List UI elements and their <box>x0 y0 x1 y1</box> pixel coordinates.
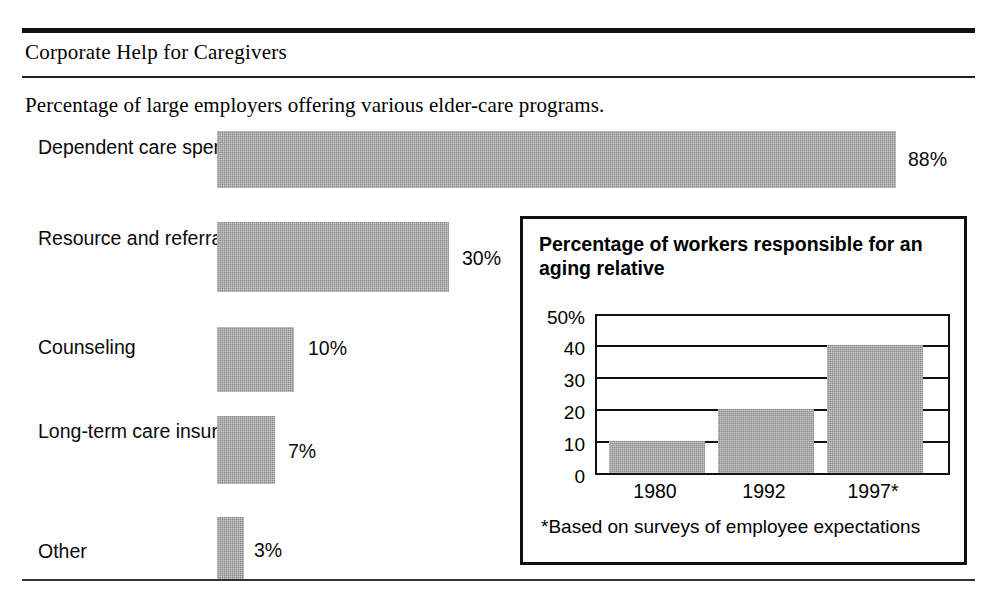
bar-value-label: 3% <box>254 539 282 562</box>
bar-value-label: 88% <box>908 148 947 171</box>
inset-footnote: *Based on surveys of employee expectatio… <box>541 516 920 538</box>
inset-chart-panel: Percentage of workers responsible for an… <box>520 216 967 565</box>
bar-value-label: 30% <box>462 247 501 270</box>
y-axis-tick-label: 0 <box>523 467 585 486</box>
bar-shape <box>217 222 449 292</box>
y-axis-tick-label: 50% <box>523 308 585 327</box>
y-axis-tick-label: 20 <box>523 403 585 422</box>
bar-value-label: 7% <box>288 440 316 463</box>
title-underline-rule <box>22 76 975 78</box>
y-axis-tick-label: 30 <box>523 371 585 390</box>
page-title: Corporate Help for Caregivers <box>25 40 287 65</box>
bar-shape <box>217 517 244 579</box>
inset-plot-area <box>595 314 950 475</box>
bar-value-label: 10% <box>308 337 347 360</box>
bar-shape <box>217 327 294 392</box>
inset-chart-title: Percentage of workers responsible for an… <box>539 232 951 280</box>
chart-subtitle: Percentage of large employers offering v… <box>25 93 604 118</box>
bar-category-label: Counseling <box>38 336 136 359</box>
top-rule <box>22 28 975 33</box>
inset-bar-1992 <box>718 409 814 473</box>
bar-shape <box>217 131 896 188</box>
inset-title-line2: aging relative <box>539 257 665 279</box>
bar-category-label: Other <box>38 540 87 563</box>
bottom-rule <box>22 579 975 581</box>
inset-bar-1980 <box>609 441 705 473</box>
bar-shape <box>217 416 275 484</box>
x-axis-tick-label: 1980 <box>595 481 715 501</box>
x-axis-tick-label: 1992 <box>704 481 824 501</box>
inset-title-line1: Percentage of workers responsible for an <box>539 233 923 255</box>
y-axis-tick-label: 10 <box>523 435 585 454</box>
inset-bar-1997 <box>827 345 923 473</box>
x-axis-tick-label: 1997* <box>813 481 933 501</box>
y-axis-tick-label: 40 <box>523 339 585 358</box>
